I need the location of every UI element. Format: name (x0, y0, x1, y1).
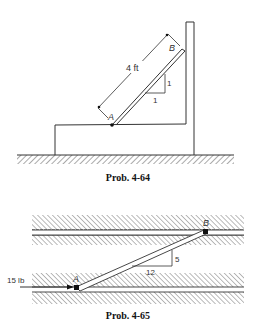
ground-hatch (17, 155, 234, 164)
point-b-label: B (203, 218, 209, 228)
bar-ab (112, 49, 185, 125)
lower-slot-top-hatch (32, 273, 244, 287)
upper-slot-top-hatch (32, 215, 244, 230)
lower-slot-bottom-hatch (32, 292, 244, 304)
slope-run-label: 12 (146, 268, 155, 277)
point-a-dot (110, 123, 114, 127)
platform-wall-outline (55, 22, 194, 155)
point-a-label: A (72, 274, 79, 284)
figure-caption: Prob. 4-64 (106, 172, 150, 183)
point-b-label: B (169, 43, 175, 53)
slider-a (74, 285, 79, 290)
figure-caption: Prob. 4-65 (106, 310, 150, 321)
point-a-label: A (107, 112, 114, 122)
slider-b (203, 229, 208, 234)
slope-run-label: 1 (153, 96, 158, 105)
slope-rise-label: 1 (167, 79, 172, 88)
length-label: 4 ft (126, 63, 139, 73)
figure-4-64: 4 ft 1 1 A B Prob. 4-64 (17, 22, 234, 183)
upper-slot-bottom-hatch (32, 234, 244, 245)
diagram-canvas: 4 ft 1 1 A B Prob. 4-64 5 12 (0, 0, 256, 327)
figure-4-65: 5 12 15 lb A B Prob. 4-65 (7, 215, 244, 321)
slope-rise-label: 5 (175, 255, 180, 264)
force-label: 15 lb (7, 276, 25, 285)
dimension-4ft (98, 34, 180, 118)
